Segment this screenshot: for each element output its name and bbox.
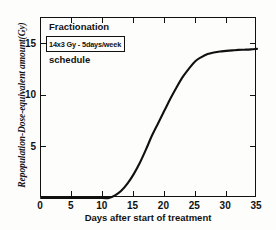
annotation-boxed-schedule: 14x3 Gy - 5days/week	[46, 36, 125, 52]
x-tick-label: 5	[68, 200, 74, 211]
annotation-line-fractionation: Fractionation	[46, 21, 176, 33]
y-tick-mark-right	[250, 95, 255, 96]
annotation-block: Fractionation 14x3 Gy - 5days/week sched…	[46, 21, 176, 66]
x-tick-label: 30	[220, 200, 231, 211]
x-tick-mark-top	[226, 18, 227, 23]
x-tick-mark	[164, 191, 165, 196]
repopulation-curve-path	[41, 49, 257, 198]
y-tick-mark-right	[250, 43, 255, 44]
x-tick-mark	[71, 191, 72, 196]
x-tick-label: 25	[189, 200, 200, 211]
x-tick-mark	[195, 191, 196, 196]
x-tick-label: 20	[158, 200, 169, 211]
y-tick-label: 15	[18, 37, 36, 48]
y-tick-mark	[41, 146, 46, 147]
y-tick-label: 5	[18, 140, 36, 151]
x-axis-title: Days after start of treatment	[40, 212, 256, 223]
x-tick-label: 35	[250, 200, 261, 211]
x-tick-mark-top	[195, 18, 196, 23]
y-tick-mark	[41, 95, 46, 96]
chart-figure: Repopulation-Dose-equivalent amount(Gy) …	[0, 0, 276, 230]
x-tick-label: 10	[96, 200, 107, 211]
x-tick-label: 0	[37, 200, 43, 211]
y-tick-label: 10	[18, 89, 36, 100]
x-tick-mark	[226, 191, 227, 196]
x-tick-label: 15	[127, 200, 138, 211]
x-tick-mark	[133, 191, 134, 196]
y-tick-mark-right	[250, 146, 255, 147]
annotation-boxed-text: 14x3 Gy - 5days/week	[49, 40, 121, 49]
annotation-line-schedule: schedule	[46, 54, 176, 66]
x-tick-mark	[102, 191, 103, 196]
